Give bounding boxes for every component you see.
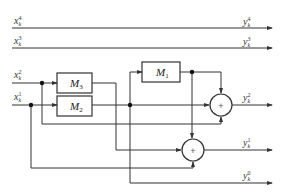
line-m3-sum-lower — [92, 83, 181, 150]
junction-x1 — [29, 103, 33, 107]
block-diagram: + + M3 M2 M1 x4k x3k x2k x1k y4k y3k y2k… — [0, 0, 281, 195]
block-m3-label: M3 — [69, 77, 83, 91]
output-label-y2: y2k — [242, 92, 250, 104]
block-m1-label: M1 — [155, 66, 169, 80]
adder-upper-symbol: + — [218, 101, 223, 111]
line-m2-m1 — [130, 72, 142, 105]
block-m2-label: M2 — [69, 100, 83, 114]
output-label-y4: y4k — [242, 16, 250, 28]
adder-lower-symbol: + — [190, 146, 195, 156]
output-label-y3: y3k — [242, 36, 250, 48]
input-label-x1: x1k — [13, 91, 21, 103]
input-label-x4: x4k — [13, 15, 21, 27]
output-label-y0: y0k — [242, 170, 250, 182]
input-label-x3: x3k — [13, 35, 21, 47]
line-m1-sum-upper — [180, 72, 221, 93]
output-label-y1: y1k — [242, 137, 250, 149]
line-m2-y0 — [130, 105, 272, 183]
junction-m1 — [190, 70, 194, 74]
junction-x2 — [40, 81, 44, 85]
input-label-x2: x2k — [13, 69, 21, 81]
junction-m2 — [128, 103, 132, 107]
line-x1-sum-lower — [31, 105, 193, 168]
